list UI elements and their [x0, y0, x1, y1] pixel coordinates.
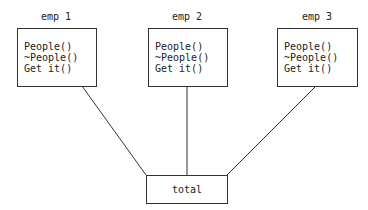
emp2-box[interactable]: People() ~People() Get it() [148, 28, 228, 87]
method-constructor: People() [284, 41, 338, 52]
method-get-it: Get it() [24, 63, 78, 74]
method-constructor: People() [24, 41, 78, 52]
emp3-box[interactable]: People() ~People() Get it() [277, 28, 358, 87]
total-label: total [172, 184, 202, 195]
emp2-title: emp 2 [147, 11, 227, 22]
link-emp1-total [82, 86, 146, 175]
link-emp3-total [227, 86, 316, 175]
method-destructor: ~People() [284, 52, 338, 63]
method-destructor: ~People() [155, 52, 209, 63]
emp1-methods: People() ~People() Get it() [24, 41, 78, 74]
emp1-box[interactable]: People() ~People() Get it() [17, 28, 97, 87]
emp3-title: emp 3 [277, 11, 357, 22]
method-get-it: Get it() [155, 63, 209, 74]
emp1-title: emp 1 [16, 11, 96, 22]
total-box[interactable]: total [146, 175, 228, 204]
method-constructor: People() [155, 41, 209, 52]
method-destructor: ~People() [24, 52, 78, 63]
emp2-methods: People() ~People() Get it() [155, 41, 209, 74]
emp3-methods: People() ~People() Get it() [284, 41, 338, 74]
method-get-it: Get it() [284, 63, 338, 74]
